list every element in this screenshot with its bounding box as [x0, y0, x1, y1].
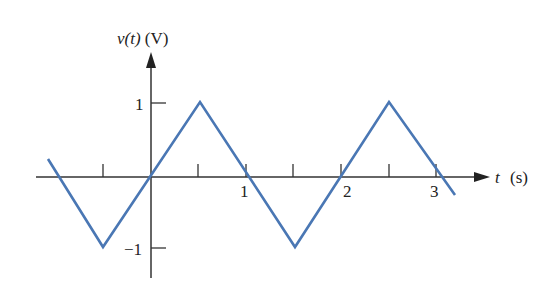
x-tick-label-2: 2	[343, 182, 352, 201]
y-tick-label-1: 1	[135, 95, 144, 114]
y-ticks	[151, 103, 166, 248]
x-axis-label: t (s)	[495, 168, 528, 187]
triangle-waveform	[48, 102, 455, 247]
y-tick-label-neg1: −1	[124, 240, 142, 259]
y-axis-label: v(t) (V)	[117, 29, 168, 48]
x-axis-arrow-icon	[474, 172, 490, 182]
y-axis-arrow-icon	[146, 52, 156, 68]
x-tick-label-3: 3	[430, 182, 439, 201]
x-tick-label-1: 1	[240, 182, 249, 201]
waveform-chart: v(t) (V) 1 −1 1 2 3 t (s)	[0, 0, 558, 289]
